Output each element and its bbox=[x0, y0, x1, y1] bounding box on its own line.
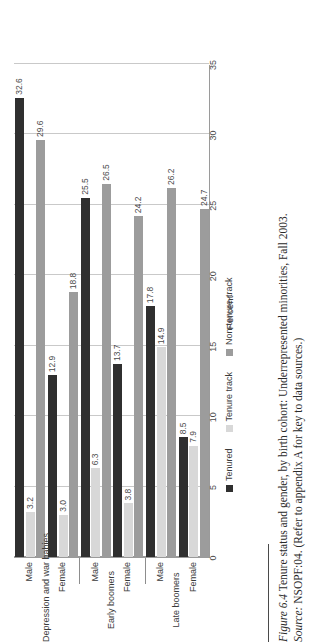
cohort-label: Depression and war babies bbox=[41, 558, 51, 642]
category-label-gender: Female bbox=[57, 562, 67, 602]
legend-label: Tenured bbox=[224, 448, 234, 481]
bar-value-label: 26.5 bbox=[101, 164, 111, 181]
bar-tenured bbox=[113, 364, 122, 557]
bar-nontrack bbox=[200, 209, 209, 557]
legend-swatch-icon bbox=[226, 485, 233, 492]
bar-value-label: 24.2 bbox=[133, 197, 143, 214]
bar-value-label: 32.6 bbox=[14, 78, 24, 95]
bar-track bbox=[59, 515, 68, 557]
bar-value-label: 17.8 bbox=[145, 287, 155, 304]
category-label-gender: Female bbox=[122, 562, 132, 602]
bar-value-label: 8.5 bbox=[178, 422, 188, 434]
bar-value-label: 12.9 bbox=[47, 356, 57, 373]
y-tick-label: 15 bbox=[208, 342, 218, 352]
figure-caption: Figure 6.4 Tenure status and gender, by … bbox=[276, 210, 306, 642]
bar-value-label: 3.0 bbox=[58, 500, 68, 512]
caption-rule bbox=[268, 544, 269, 642]
bar-tenured bbox=[81, 198, 90, 557]
figure-number: Figure 6.4 bbox=[277, 594, 289, 642]
y-tick-label: 30 bbox=[208, 130, 218, 140]
bar-nontrack bbox=[69, 292, 78, 557]
bar-value-label: 25.5 bbox=[80, 178, 90, 195]
y-tick-label: 0 bbox=[208, 555, 218, 560]
bar-value-label: 3.8 bbox=[123, 489, 133, 501]
bar-value-label: 7.9 bbox=[188, 431, 198, 443]
bar-track bbox=[124, 503, 133, 557]
bar-track bbox=[91, 468, 100, 557]
bar-value-label: 3.2 bbox=[25, 497, 35, 509]
legend-label: Tenure track bbox=[224, 372, 234, 422]
category-label-gender: Male bbox=[90, 562, 100, 602]
source-text: NSOPF:04. (Refer to appendix A for key t… bbox=[292, 338, 304, 604]
bar-value-label: 14.9 bbox=[156, 328, 166, 345]
plot-area: 32.63.229.612.93.018.825.56.326.513.73.8… bbox=[14, 65, 210, 558]
legend-label: Non-tenure-track bbox=[224, 277, 234, 345]
bar-tenured bbox=[48, 375, 57, 557]
category-label-gender: Male bbox=[24, 562, 34, 602]
bar-value-label: 29.6 bbox=[35, 121, 45, 138]
bar-track bbox=[189, 446, 198, 557]
chart-figure: 32.63.229.612.93.018.825.56.326.513.73.8… bbox=[8, 57, 256, 642]
bar-track bbox=[26, 512, 35, 557]
figure-page: 32.63.229.612.93.018.825.56.326.513.73.8… bbox=[0, 0, 313, 642]
source-label: Source: bbox=[292, 607, 304, 642]
bar-tenured bbox=[179, 437, 188, 557]
y-tick-label: 35 bbox=[208, 60, 218, 70]
bar-value-label: 26.2 bbox=[166, 168, 176, 185]
gridline bbox=[14, 63, 209, 64]
bar-value-label: 6.3 bbox=[90, 453, 100, 465]
cohort-label: Early boomers bbox=[106, 558, 116, 642]
cohort-separator bbox=[79, 558, 80, 584]
legend-swatch-icon bbox=[226, 425, 233, 432]
y-tick-label: 10 bbox=[208, 412, 218, 422]
bar-nontrack bbox=[134, 216, 143, 557]
bar-value-label: 18.8 bbox=[68, 273, 78, 290]
bar-value-label: 13.7 bbox=[112, 344, 122, 361]
category-label-gender: Male bbox=[155, 562, 165, 602]
y-tick-label: 20 bbox=[208, 271, 218, 281]
y-tick-label: 5 bbox=[208, 485, 218, 490]
bar-tenured bbox=[146, 306, 155, 557]
bar-track bbox=[157, 347, 166, 557]
legend-item: Non-tenure-track bbox=[224, 277, 234, 356]
legend-item: Tenured bbox=[224, 448, 234, 492]
legend-swatch-icon bbox=[226, 349, 233, 356]
legend-item: Tenure track bbox=[224, 372, 234, 433]
cohort-separator bbox=[145, 558, 146, 584]
caption-text: Tenure status and gender, by birth cohor… bbox=[277, 213, 289, 591]
category-label-gender: Female bbox=[188, 562, 198, 602]
bar-nontrack bbox=[102, 184, 111, 557]
bar-nontrack bbox=[167, 188, 176, 557]
cohort-label: Late boomers bbox=[171, 558, 181, 642]
y-tick-label: 25 bbox=[208, 201, 218, 211]
bar-nontrack bbox=[36, 140, 45, 557]
chart-legend: TenuredTenure trackNon-tenure-track bbox=[224, 277, 234, 492]
bar-tenured bbox=[15, 98, 24, 557]
